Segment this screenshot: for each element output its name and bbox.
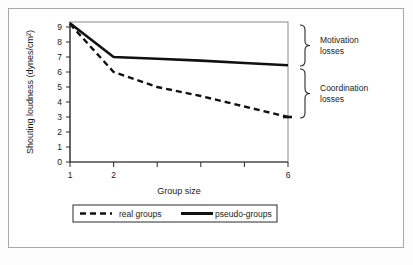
y-tick-label-6: 6 (57, 67, 62, 77)
y-tick-label-8: 8 (57, 37, 62, 47)
y-tick-label-0: 0 (57, 157, 62, 167)
coordination-losses-label-line2: losses (320, 94, 344, 104)
y-tick-label-3: 3 (57, 112, 62, 122)
x-tick-label-6: 6 (286, 170, 291, 180)
x-tick-label-1: 1 (68, 170, 73, 180)
figure-root: 9 8 7 6 5 4 3 2 1 0 1 2 6 Group size Sho… (0, 0, 413, 265)
y-axis-title: Shouting loudness (dynes/cm²) (25, 30, 35, 154)
legend-label-real-groups: real groups (119, 209, 162, 219)
x-axis-title: Group size (157, 186, 201, 196)
x-axis-ticks (70, 162, 288, 167)
motivation-losses-label-line2: losses (320, 46, 344, 56)
motivation-losses-brace (300, 25, 310, 66)
legend-label-pseudo-groups: pseudo-groups (215, 209, 272, 219)
y-tick-label-1: 1 (57, 142, 62, 152)
x-tick-label-2: 2 (111, 170, 116, 180)
y-tick-label-2: 2 (57, 127, 62, 137)
y-tick-label-9: 9 (57, 22, 62, 32)
motivation-losses-label-line1: Motivation (320, 35, 359, 45)
shouting-loudness-line-chart: 9 8 7 6 5 4 3 2 1 0 1 2 6 Group size Sho… (0, 0, 413, 265)
coordination-losses-brace (300, 69, 310, 118)
y-tick-label-4: 4 (57, 97, 62, 107)
y-tick-label-7: 7 (57, 52, 62, 62)
coordination-losses-label-line1: Coordination (320, 83, 368, 93)
y-tick-label-5: 5 (57, 82, 62, 92)
